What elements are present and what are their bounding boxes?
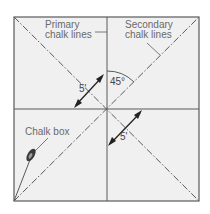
primary-label-line2: chalk lines bbox=[45, 29, 92, 40]
chalk-box-label: Chalk box bbox=[25, 126, 69, 137]
angle-label: 45° bbox=[110, 76, 125, 87]
chalk-line-layout-diagram: 45° 5' 5' Primary chalk lines Secondary … bbox=[0, 0, 210, 214]
offset-label-lower: 5' bbox=[120, 131, 128, 142]
secondary-label-line2: chalk lines bbox=[125, 29, 172, 40]
offset-label-upper: 5' bbox=[79, 83, 87, 94]
